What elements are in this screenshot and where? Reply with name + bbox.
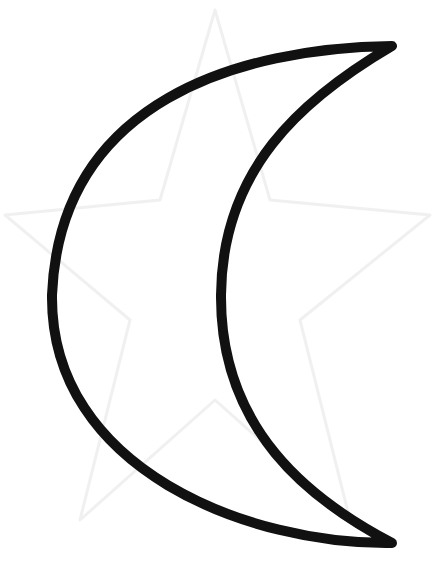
crescent-moon-illustration [0, 0, 434, 581]
coloring-page-canvas [0, 0, 434, 581]
star-watermark [5, 10, 430, 520]
crescent-moon-outline [52, 46, 392, 543]
